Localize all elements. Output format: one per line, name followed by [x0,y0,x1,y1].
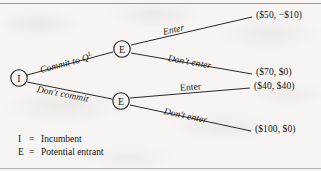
node-entrant-top-label: E [119,44,125,55]
payoff-dont-enter-after-commit: ($70, $0) [256,67,292,77]
legend-equals-incumbent: = [29,133,41,146]
node-incumbent[interactable]: I [11,70,27,86]
legend-key-entrant: E [18,146,29,159]
legend-row-incumbent: I = Incumbent [18,133,104,146]
legend: I = Incumbent E = Potential entrant [18,133,104,159]
node-entrant-top[interactable]: E [114,41,130,57]
legend-equals-entrant: = [29,146,41,159]
legend-text-incumbent: Incumbent [41,133,82,146]
edge-enter-top-line [131,17,252,45]
legend-row-entrant: E = Potential entrant [18,146,104,159]
node-entrant-bottom[interactable]: E [113,93,129,109]
payoff-dont-enter-after-dont-commit: ($100, $0) [255,124,296,134]
edge-label-enter-bottom: Enter [180,81,202,93]
node-incumbent-label: I [17,73,20,84]
payoff-enter-after-commit: ($50, −$10) [256,10,302,20]
legend-text-entrant: Potential entrant [41,146,104,159]
node-entrant-bottom-label: E [118,96,124,107]
figure-canvas: I E E Commit to QL Don't commit Enter Do… [0,0,321,171]
payoff-enter-after-dont-commit: ($40, $40) [254,81,295,91]
legend-key-incumbent: I [18,133,29,146]
